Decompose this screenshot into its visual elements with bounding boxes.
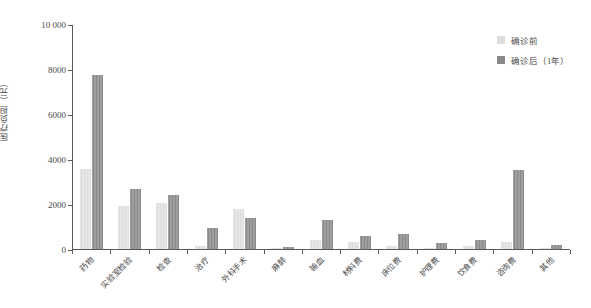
x-tick-mark — [417, 250, 418, 254]
y-axis-title: 医疗负担（元） — [1, 78, 19, 141]
legend-label: 确诊前 — [511, 34, 538, 46]
legend-swatch-icon — [497, 36, 505, 44]
bar-post — [130, 189, 141, 249]
bar-pre — [310, 240, 321, 249]
x-axis-label-text: 药物 — [78, 254, 97, 273]
x-tick-mark — [72, 250, 73, 254]
bar-pre — [118, 206, 129, 249]
bar-pre — [501, 242, 512, 249]
legend-label: 确诊后（1年） — [511, 54, 569, 66]
y-tick-label: 2000 — [48, 200, 66, 210]
x-tick-mark — [340, 250, 341, 254]
chart-legend: 确诊前确诊后（1年） — [497, 32, 589, 72]
x-axis-line — [72, 249, 570, 250]
x-axis-label-text: 护理费 — [418, 254, 443, 279]
y-tick-label: 4000 — [48, 155, 66, 165]
bar-pre — [539, 248, 550, 249]
x-axis-label-text: 饮食费 — [456, 254, 481, 279]
bar-pre — [348, 242, 359, 249]
x-axis-label-text: 床位费 — [379, 254, 404, 279]
x-tick-mark — [225, 250, 226, 254]
y-tick-mark — [68, 160, 72, 161]
bar-chart: 医疗负担（元） 0200040006000800010 000 药物实验室检验检… — [0, 0, 591, 308]
bar-pre — [195, 246, 206, 249]
y-tick-label: 8000 — [48, 65, 66, 75]
legend-item[interactable]: 确诊前 — [497, 32, 589, 48]
plot-area: 0200040006000800010 000 — [72, 22, 570, 250]
y-tick-label: 0 — [62, 245, 67, 255]
x-axis-label-text: 检查 — [155, 254, 174, 273]
x-tick-mark — [493, 250, 494, 254]
bar-pre — [80, 169, 91, 249]
x-tick-mark — [532, 250, 533, 254]
bar-pre — [386, 246, 397, 249]
x-tick-mark — [149, 250, 150, 254]
x-axis-label-text: 治疗 — [193, 254, 212, 273]
x-tick-mark — [455, 250, 456, 254]
x-axis-label-text: 咨询费 — [494, 254, 519, 279]
x-axis-label-text: 材料费 — [341, 254, 366, 279]
bar-post — [92, 75, 103, 249]
legend-item[interactable]: 确诊后（1年） — [497, 52, 589, 68]
bar-post — [168, 195, 179, 249]
x-axis-label-text: 其他 — [538, 254, 557, 273]
y-tick-label: 6000 — [48, 110, 66, 120]
y-tick-mark — [68, 205, 72, 206]
x-axis-label-text: 实验室检验 — [100, 254, 136, 290]
bar-pre — [424, 248, 435, 249]
x-axis-label-text: 输血 — [308, 254, 327, 273]
x-tick-mark — [378, 250, 379, 254]
bar-pre — [233, 209, 244, 249]
y-tick-mark — [68, 70, 72, 71]
x-axis-label-text: 麻醉 — [270, 254, 289, 273]
x-axis-label-text: 外科手术 — [220, 254, 250, 284]
bar-pre — [463, 246, 474, 249]
bar-post — [513, 170, 524, 249]
x-tick-mark — [264, 250, 265, 254]
x-tick-mark — [302, 250, 303, 254]
x-tick-mark — [570, 250, 571, 254]
x-tick-mark — [187, 250, 188, 254]
x-tick-mark — [110, 250, 111, 254]
y-tick-label: 10 000 — [41, 20, 66, 30]
y-axis-line — [72, 25, 73, 250]
bar-pre — [271, 248, 282, 249]
legend-swatch-icon — [497, 56, 505, 64]
y-tick-mark — [68, 115, 72, 116]
y-tick-mark — [68, 25, 72, 26]
